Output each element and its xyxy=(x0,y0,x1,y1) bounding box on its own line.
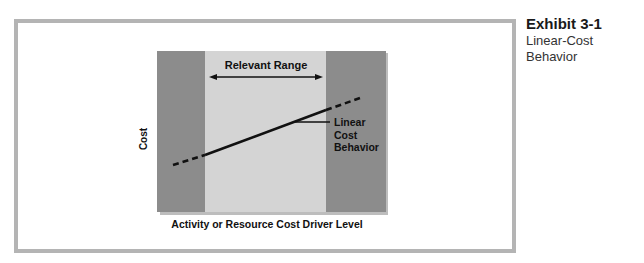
left-outside-range-band xyxy=(157,51,205,212)
exhibit-number: Exhibit 3-1 xyxy=(526,15,644,33)
line-label-cost: Cost xyxy=(334,129,358,141)
relevant-range-label: Relevant Range xyxy=(225,59,308,71)
exhibit-caption: Exhibit 3-1 Linear-Cost Behavior xyxy=(526,15,644,65)
line-label-linear: Linear xyxy=(334,116,366,128)
line-label-behavior: Behavior xyxy=(334,141,379,153)
exhibit-title: Linear-Cost Behavior xyxy=(526,33,644,65)
x-axis-label: Activity or Resource Cost Driver Level xyxy=(171,218,362,230)
y-axis-label: Cost xyxy=(138,127,149,150)
